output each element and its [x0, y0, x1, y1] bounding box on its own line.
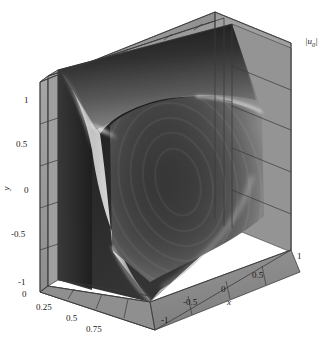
z-tick-label: 0.75 [86, 325, 102, 334]
x-axis-title: x [227, 298, 231, 307]
box-panel-left-wall [48, 70, 58, 286]
surface-plot-figure: 1 0.5 0 -0.5 -1 y 0 0.25 0.5 0.75 -1 -0.… [0, 0, 334, 340]
y-tick-label: 0 [24, 186, 29, 195]
x-tick-label: 0 [221, 285, 226, 294]
y-tick-label: -1 [18, 278, 26, 287]
x-tick-label: -1 [161, 316, 169, 325]
y-tick-label: 0.5 [16, 140, 27, 149]
x-tick-label: 0.5 [252, 271, 263, 280]
x-tick-label: -0.5 [183, 298, 197, 307]
z-tick-label: 0 [22, 290, 27, 299]
y-axis-title: y [2, 187, 11, 191]
y-tick-label: 1 [24, 96, 29, 105]
value-axis-label-main: |u [305, 36, 312, 46]
plot-canvas [0, 0, 334, 340]
y-tick-label: -0.5 [11, 230, 25, 239]
x-tick-label: 1 [297, 252, 302, 261]
value-axis-label-close: | [315, 36, 317, 46]
box-panel-left-outer [40, 76, 48, 292]
value-axis-label: |u0| [305, 37, 318, 48]
z-tick-label: 0.25 [36, 303, 52, 312]
z-tick-label: 0.5 [66, 314, 77, 323]
